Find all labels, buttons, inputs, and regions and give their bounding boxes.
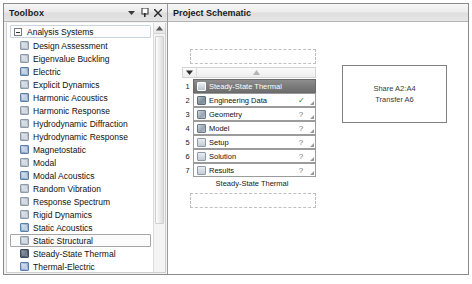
analysis-system-icon bbox=[20, 158, 29, 167]
steady-state-thermal-icon bbox=[197, 82, 206, 91]
cell-setup[interactable]: Setup ? bbox=[193, 135, 316, 149]
sidebar-item-hydrodynamic-diffraction[interactable]: Hydrodynamic Diffraction bbox=[10, 117, 151, 130]
sidebar-item-label: Random Vibration bbox=[33, 184, 101, 194]
cell-resize-grip[interactable] bbox=[308, 108, 315, 120]
sidebar-item-design-assessment[interactable]: Design Assessment bbox=[10, 39, 151, 52]
table-row[interactable]: 2 Engineering Data ✓ bbox=[182, 93, 316, 107]
project-schematic-panel: Project Schematic bbox=[168, 4, 468, 274]
cell-results[interactable]: Results ? bbox=[193, 163, 316, 177]
close-icon[interactable] bbox=[153, 7, 162, 18]
workbench-window: Toolbox bbox=[3, 3, 469, 275]
column-letter bbox=[197, 70, 315, 75]
sidebar-item-electric[interactable]: Electric bbox=[10, 65, 151, 78]
sidebar-item-label: Hydrodynamic Response bbox=[33, 132, 128, 142]
analysis-system-icon bbox=[20, 67, 29, 76]
project-schematic-title: Project Schematic bbox=[173, 8, 251, 18]
pin-icon[interactable] bbox=[140, 7, 149, 18]
row-number: 5 bbox=[182, 138, 193, 147]
cell-label: Results bbox=[209, 166, 294, 175]
model-icon bbox=[197, 124, 206, 133]
chevron-down-icon[interactable] bbox=[127, 7, 136, 18]
table-row[interactable]: 6 Solution ? bbox=[182, 149, 316, 163]
table-row[interactable]: 3 Geometry ? bbox=[182, 107, 316, 121]
cell-resize-grip[interactable] bbox=[308, 136, 315, 148]
system-menu-triangle-icon[interactable] bbox=[183, 68, 197, 77]
system-block-steady-state-thermal[interactable]: 1 Steady-State Thermal 2 Engineering Dat… bbox=[182, 67, 316, 188]
sidebar-item-magnetostatic[interactable]: Magnetostatic bbox=[10, 143, 151, 156]
analysis-system-icon bbox=[20, 210, 29, 219]
toolbox-panel: Toolbox bbox=[4, 4, 168, 274]
geometry-icon bbox=[197, 110, 206, 119]
sidebar-item-random-vibration[interactable]: Random Vibration bbox=[10, 182, 151, 195]
sidebar-item-eigenvalue-buckling[interactable]: Eigenvalue Buckling bbox=[10, 52, 151, 65]
cell-geometry[interactable]: Geometry ? bbox=[193, 107, 316, 121]
cell-solution[interactable]: Solution ? bbox=[193, 149, 316, 163]
toolbox-scrollbar[interactable] bbox=[153, 23, 165, 272]
row-number: 3 bbox=[182, 110, 193, 119]
drop-target-below[interactable] bbox=[190, 193, 316, 208]
sidebar-item-label: Thermal-Electric bbox=[33, 262, 95, 272]
table-row[interactable]: 5 Setup ? bbox=[182, 135, 316, 149]
sidebar-item-harmonic-acoustics[interactable]: Harmonic Acoustics bbox=[10, 91, 151, 104]
cell-label: Solution bbox=[209, 152, 294, 161]
tree-group-label: Analysis Systems bbox=[27, 27, 94, 37]
analysis-system-icon bbox=[20, 106, 29, 115]
analysis-system-icon bbox=[20, 249, 29, 258]
sidebar-item-label: Harmonic Acoustics bbox=[33, 93, 108, 103]
scroll-up-arrow-icon[interactable] bbox=[154, 23, 165, 34]
cell-resize-grip[interactable] bbox=[308, 122, 315, 134]
system-rows: 1 Steady-State Thermal 2 Engineering Dat… bbox=[182, 79, 316, 177]
sidebar-item-thermal-electric[interactable]: Thermal-Electric bbox=[10, 260, 151, 272]
analysis-system-icon bbox=[20, 93, 29, 102]
sidebar-item-label: Design Assessment bbox=[33, 41, 108, 51]
project-schematic-canvas[interactable]: 1 Steady-State Thermal 2 Engineering Dat… bbox=[168, 22, 468, 274]
cell-model[interactable]: Model ? bbox=[193, 121, 316, 135]
status-badge: ? bbox=[294, 166, 308, 175]
project-schematic-header: Project Schematic bbox=[168, 4, 468, 22]
sidebar-item-harmonic-response[interactable]: Harmonic Response bbox=[10, 104, 151, 117]
analysis-system-icon bbox=[20, 54, 29, 63]
status-badge: ? bbox=[294, 152, 308, 161]
drop-target-above[interactable] bbox=[190, 49, 316, 64]
cell-label: Model bbox=[209, 124, 294, 133]
sidebar-item-modal-acoustics[interactable]: Modal Acoustics bbox=[10, 169, 151, 182]
solution-icon bbox=[197, 152, 206, 161]
sidebar-item-steady-state-thermal[interactable]: Steady-State Thermal bbox=[10, 247, 151, 260]
analysis-system-icon bbox=[20, 223, 29, 232]
analysis-system-icon bbox=[20, 145, 29, 154]
sidebar-item-static-acoustics[interactable]: Static Acoustics bbox=[10, 221, 151, 234]
table-row[interactable]: 7 Results ? bbox=[182, 163, 316, 177]
analysis-system-icon bbox=[20, 262, 29, 271]
sidebar-item-explicit-dynamics[interactable]: Explicit Dynamics bbox=[10, 78, 151, 91]
sidebar-item-label: Rigid Dynamics bbox=[33, 210, 92, 220]
table-row[interactable]: 4 Model ? bbox=[182, 121, 316, 135]
cell-resize-grip[interactable] bbox=[308, 150, 315, 162]
system-caption: Steady-State Thermal bbox=[182, 179, 316, 188]
cell-label: Steady-State Thermal bbox=[209, 82, 315, 91]
sidebar-item-label: Modal Acoustics bbox=[33, 171, 94, 181]
sidebar-item-response-spectrum[interactable]: Response Spectrum bbox=[10, 195, 151, 208]
status-badge: ? bbox=[294, 124, 308, 133]
sidebar-item-rigid-dynamics[interactable]: Rigid Dynamics bbox=[10, 208, 151, 221]
sidebar-item-label: Magnetostatic bbox=[33, 145, 86, 155]
scrollbar-thumb[interactable] bbox=[155, 36, 164, 224]
cell-system-title[interactable]: Steady-State Thermal bbox=[193, 79, 316, 93]
sidebar-item-hydrodynamic-response[interactable]: Hydrodynamic Response bbox=[10, 130, 151, 143]
toolbox-header-buttons bbox=[127, 7, 165, 18]
cell-engineering-data[interactable]: Engineering Data ✓ bbox=[193, 93, 316, 107]
sidebar-item-label: Static Structural bbox=[33, 236, 93, 246]
sidebar-item-label: Response Spectrum bbox=[33, 197, 110, 207]
tree-group-analysis-systems[interactable]: Analysis Systems bbox=[10, 25, 151, 38]
sidebar-item-static-structural[interactable]: Static Structural bbox=[10, 234, 151, 247]
row-number: 7 bbox=[182, 166, 193, 175]
cell-label: Engineering Data bbox=[209, 96, 294, 105]
sidebar-item-label: Hydrodynamic Diffraction bbox=[33, 119, 128, 129]
cell-resize-grip[interactable] bbox=[308, 94, 315, 106]
sidebar-item-label: Explicit Dynamics bbox=[33, 80, 100, 90]
sidebar-item-modal[interactable]: Modal bbox=[10, 156, 151, 169]
table-row[interactable]: 1 Steady-State Thermal bbox=[182, 79, 316, 93]
collapse-expander-icon[interactable] bbox=[14, 28, 22, 36]
system-column-header[interactable] bbox=[182, 67, 316, 78]
scrollbar-track[interactable] bbox=[154, 34, 165, 272]
cell-resize-grip[interactable] bbox=[308, 164, 315, 176]
